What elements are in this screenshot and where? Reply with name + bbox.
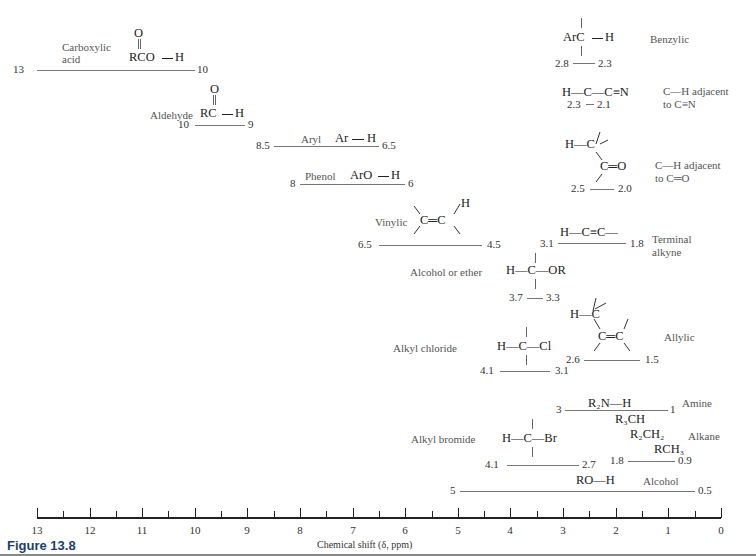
range-bar	[37, 70, 195, 71]
range-end: 2.3	[598, 57, 612, 69]
benzylic-label: Benzylic	[650, 33, 689, 45]
range-bar	[274, 146, 379, 147]
vinylic-label: Vinylic	[375, 216, 407, 228]
tick-minor	[695, 511, 696, 518]
bond	[222, 114, 233, 115]
nitrile-label-1: C—H adjacent	[663, 85, 729, 97]
tick-minor	[484, 511, 485, 518]
figure-caption: Figure 13.8	[7, 538, 76, 553]
range-end: 0.5	[698, 484, 712, 496]
amine-label: Amine	[682, 397, 712, 409]
tick-major	[458, 508, 459, 518]
tick-label: 9	[244, 524, 250, 536]
tick-minor	[326, 511, 327, 518]
range-start: 6.5	[358, 238, 372, 250]
carbonyl-formula: C═O	[600, 159, 626, 174]
aldehyde-h: H	[235, 106, 244, 121]
allylic-formula: C═C	[598, 329, 624, 344]
benzylic-h: H	[605, 30, 614, 45]
range-start: 3.7	[509, 291, 523, 303]
carboxylic-formula: RCO	[129, 50, 155, 65]
range-bar	[586, 104, 594, 105]
bond	[352, 139, 364, 140]
tick-minor	[642, 511, 643, 518]
bond	[526, 355, 527, 365]
range-end: 1	[670, 403, 676, 415]
carbonyl-hc: H—C	[565, 137, 595, 152]
tick-major	[353, 508, 354, 518]
range-start: 1.8	[610, 454, 624, 466]
alkyl-chloride-formula: H—C—Cl	[497, 339, 551, 354]
tick-minor	[168, 511, 169, 518]
tick-label: 11	[137, 524, 148, 536]
bond	[532, 419, 533, 429]
range-start: 10	[178, 118, 189, 130]
range-bar	[460, 491, 695, 492]
benzylic-formula: ArC	[563, 30, 585, 45]
tick-label: 7	[350, 524, 356, 536]
range-bar	[379, 245, 482, 246]
tick-minor	[379, 511, 380, 518]
range-end: 4.5	[487, 238, 501, 250]
alcohol-ether-label: Alcohol or ether	[410, 266, 482, 278]
range-bar	[573, 63, 595, 64]
range-bar	[628, 461, 675, 462]
tick-major	[90, 508, 91, 518]
tick-label: 0	[718, 524, 724, 536]
range-bar	[500, 371, 550, 372]
tick-major	[37, 508, 38, 518]
alkyne-label-1: Terminal	[652, 233, 692, 245]
tick-major	[405, 508, 406, 518]
range-end: 2.7	[582, 458, 596, 470]
range-end: 2.1	[597, 98, 611, 110]
tick-minor	[116, 511, 117, 518]
vinylic-formula: C═C	[420, 213, 446, 228]
carboxylic-h: H	[175, 50, 184, 65]
tick-major	[721, 508, 722, 518]
tick-label: 10	[190, 524, 201, 536]
double-bond	[138, 39, 139, 49]
range-start: 3	[556, 403, 562, 415]
range-start: 4.1	[480, 364, 494, 376]
bond	[535, 279, 536, 289]
double-bond	[213, 95, 214, 105]
range-end: 1.5	[645, 353, 659, 365]
tick-major	[563, 508, 564, 518]
alkyl-bromide-formula: H—C—Br	[502, 431, 557, 446]
range-bar	[300, 184, 405, 185]
range-bar	[527, 298, 543, 299]
tick-label: 4	[507, 524, 513, 536]
tick-major	[247, 508, 248, 518]
range-bar	[195, 125, 245, 126]
alcohol-label: Alcohol	[643, 475, 678, 487]
range-end: 6	[408, 177, 414, 189]
alkyne-formula: H—C≡C—	[560, 225, 618, 240]
bond	[162, 58, 173, 59]
range-start: 3.1	[540, 237, 554, 249]
tick-major	[510, 508, 511, 518]
nitrile-label-2: to C≡N	[663, 98, 696, 110]
range-start: 8.5	[256, 139, 270, 151]
bond	[535, 253, 536, 263]
aryl-label: Aryl	[301, 133, 321, 145]
tick-label: 1	[665, 524, 671, 536]
range-end: 10	[197, 63, 208, 75]
range-end: 3.3	[546, 291, 560, 303]
tick-label: 3	[560, 524, 566, 536]
alcohol-ether-formula: H—C—OR	[506, 263, 566, 278]
aldehyde-formula: RC	[200, 106, 217, 121]
tick-label: 12	[85, 524, 96, 536]
tick-label: 2	[613, 524, 619, 536]
range-end: 0.9	[678, 454, 692, 466]
tick-major	[668, 508, 669, 518]
amine-formula: R₂N—H	[588, 396, 631, 411]
range-end: 1.8	[630, 237, 644, 249]
allylic-structure-icon	[570, 295, 660, 355]
range-bar	[565, 410, 668, 411]
tick-label: 6	[402, 524, 408, 536]
alcohol-formula: RO—H	[576, 473, 615, 488]
range-start: 2.3	[567, 98, 581, 110]
tick-minor	[63, 511, 64, 518]
range-bar	[584, 360, 640, 361]
range-end: 9	[248, 118, 254, 130]
